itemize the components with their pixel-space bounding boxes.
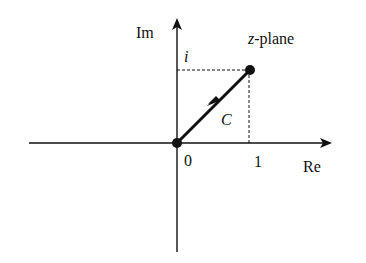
contour-label: C (221, 111, 232, 128)
endpoint-1-plus-i (245, 65, 255, 75)
plane-title: z-plane (247, 30, 294, 48)
contour-c (177, 70, 250, 143)
x-axis-label: Re (303, 158, 321, 175)
diagram-svg: Im i z-plane C 0 1 Re (0, 0, 366, 263)
origin-point (172, 138, 182, 148)
y-tick-label: i (184, 48, 188, 65)
origin-label: 0 (184, 152, 192, 169)
z-plane-diagram: Im i z-plane C 0 1 Re (0, 0, 366, 263)
x-tick-label: 1 (254, 153, 262, 170)
plane-title-rest: -plane (254, 30, 294, 48)
y-axis-label: Im (136, 24, 154, 41)
